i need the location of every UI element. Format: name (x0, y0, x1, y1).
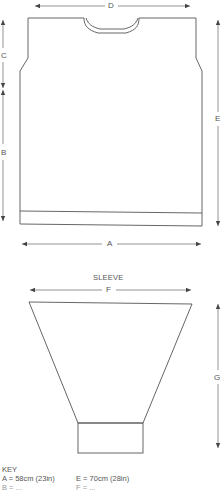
key-row: A = 58cm (23in) E = 70cm (28in) (2, 474, 129, 483)
key-entry-b-truncated: B = ... (2, 483, 76, 490)
label-d: D (107, 1, 115, 10)
label-b: B (0, 148, 7, 157)
key-entry-f-truncated: F = ... (76, 483, 95, 490)
label-g: G (213, 373, 221, 382)
key-row-truncated: B = ... F = ... (2, 483, 129, 490)
body-piece-outline (20, 18, 202, 226)
sleeve-title: SLEEVE (93, 273, 123, 282)
label-a: A (106, 239, 113, 248)
key-entry-e: E = 70cm (28in) (76, 474, 129, 483)
measurement-key: KEY A = 58cm (23in) E = 70cm (28in) B = … (2, 465, 129, 490)
label-c: C (0, 51, 8, 60)
key-heading: KEY (2, 465, 129, 474)
label-f: F (105, 285, 112, 294)
label-e: E (214, 114, 221, 123)
key-entry-a: A = 58cm (23in) (2, 474, 76, 483)
sleeve-piece-outline (29, 302, 192, 453)
